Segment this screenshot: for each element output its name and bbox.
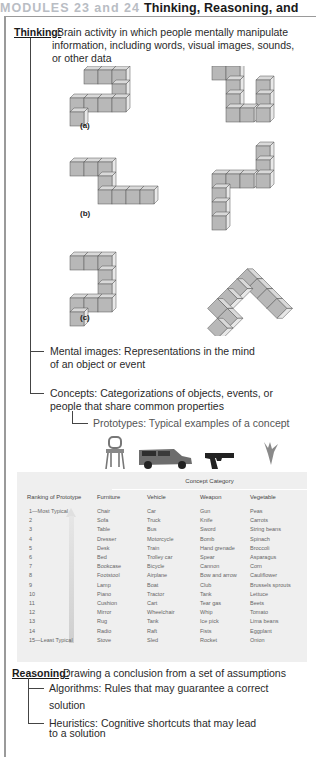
- algorithms-line-2: solution: [49, 699, 85, 712]
- weapon-column: GunKnifeSwordBombHand grenadeSpearCannon…: [200, 507, 237, 645]
- mental-images-line-2: of an object or event: [50, 358, 145, 371]
- algorithms-line-1: Algorithms: Rules that may guarantee a c…: [49, 682, 268, 695]
- prototype-ranking-table: Concept Category Ranking of Prototype Fu…: [17, 472, 307, 662]
- page-header: MODULES 23 and 24Thinking, Reasoning, an…: [0, 0, 312, 16]
- reasoning-term: Reasoning:: [12, 667, 69, 680]
- concepts-line-2: people that share common properties: [50, 400, 224, 413]
- header-vehicle: Vehicle: [147, 494, 166, 500]
- thinking-definition-2: information, including words, visual ima…: [52, 39, 294, 52]
- module-label: MODULES 23 and 24: [0, 1, 140, 15]
- concepts-line-1: Concepts: Categorizations of objects, ev…: [50, 387, 273, 400]
- thinking-term: Thinking:: [14, 26, 61, 39]
- header-vegetable: Vegetable: [250, 494, 276, 500]
- caption-rule: [112, 489, 307, 490]
- chair-icon: [102, 436, 128, 470]
- prototypes-branch: [72, 423, 88, 424]
- algorithms-branch: [28, 688, 44, 689]
- prototypes-text: Prototypes: Typical examples of a concep…: [93, 417, 290, 430]
- rank-column: 1—Most Typical23456789101112131415—Least…: [29, 507, 73, 645]
- figure-label-c: (c): [80, 313, 90, 322]
- vehicle-column: CarTruckBusMotorcycleTrainTrolley carBic…: [147, 507, 175, 645]
- mental-images-branch: [30, 351, 44, 352]
- header-weapon: Weapon: [200, 494, 222, 500]
- gun-icon: [204, 450, 236, 470]
- heuristics-branch: [28, 723, 44, 724]
- table-caption: Concept Category: [112, 478, 307, 484]
- vegetable-column: PeasCarrotsString beansSpinachBroccoliAs…: [250, 507, 291, 645]
- prototypes-tree-line: [72, 411, 73, 423]
- heuristics-line-2: to a solution: [49, 727, 106, 740]
- figure-label-a: (a): [80, 121, 90, 130]
- car-icon: [136, 446, 194, 470]
- furniture-column: ChairSofaTableDresserDeskBedBookcaseFoot…: [97, 507, 121, 645]
- thinking-definition-3: or other data: [52, 52, 112, 65]
- concepts-branch: [30, 393, 44, 394]
- page-title: Thinking, Reasoning, and: [144, 1, 299, 15]
- header-ranking: Ranking of Prototype: [27, 494, 81, 500]
- mental-images-line-1: Mental images: Representations in the mi…: [50, 345, 255, 358]
- thinking-definition-1: Brain activity in which people mentally …: [57, 26, 288, 39]
- header-furniture: Furniture: [97, 494, 120, 500]
- reasoning-tree-line: [28, 678, 29, 724]
- vegetable-icon: [262, 440, 280, 466]
- mental-rotation-figure: [60, 66, 310, 336]
- figure-label-b: (b): [80, 209, 90, 218]
- reasoning-definition: Drawing a conclusion from a set of assum…: [63, 667, 286, 680]
- thinking-tree-line: [30, 38, 31, 393]
